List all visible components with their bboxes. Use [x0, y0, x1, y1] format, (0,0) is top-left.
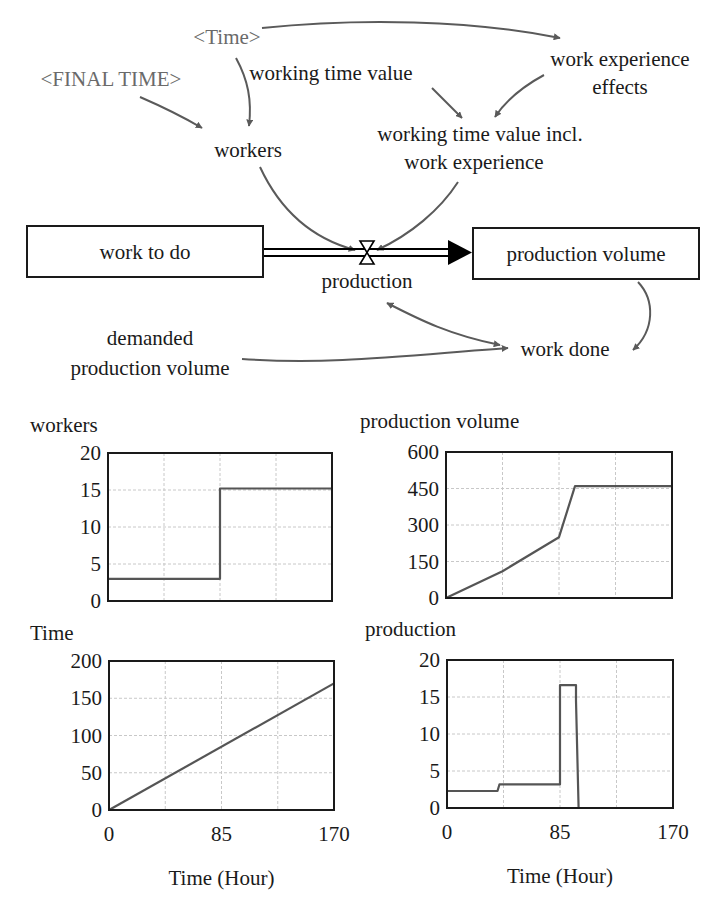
x-tick-label: 85	[550, 820, 571, 844]
chart-grid	[109, 661, 334, 810]
link-production-volume-to-work-done	[633, 282, 650, 350]
chart-grid	[446, 452, 672, 598]
series-line	[108, 489, 332, 579]
chart-title: workers	[30, 413, 98, 437]
y-tick-label: 5	[430, 759, 441, 783]
x-axis-label: Time (Hour)	[507, 864, 613, 888]
chart-workers: workers05101520	[30, 413, 332, 613]
link-work-done-to-production	[387, 303, 500, 345]
y-tick-label: 0	[430, 796, 441, 820]
y-tick-label: 0	[91, 589, 102, 613]
link-workers-to-production	[260, 167, 355, 250]
y-tick-label: 50	[81, 761, 102, 785]
series-line	[447, 685, 673, 808]
y-tick-label: 150	[71, 686, 103, 710]
flow-arrowhead-icon	[448, 240, 472, 265]
chart-title: production	[365, 617, 456, 641]
stock-label: work to do	[100, 240, 191, 264]
x-tick-label: 0	[442, 820, 453, 844]
stock-label: production volume	[506, 242, 665, 266]
stock-work-to-do[interactable]: work to do	[27, 226, 263, 277]
variable-working-time-value-incl-line1[interactable]: working time value incl.	[377, 122, 582, 146]
variable-demanded-production-volume-line1[interactable]: demanded	[107, 326, 194, 350]
variable-working-time-value[interactable]: working time value	[249, 61, 412, 85]
link-final-time-to-workers	[140, 97, 202, 128]
y-tick-label: 150	[408, 550, 440, 574]
y-tick-label: 15	[419, 685, 440, 709]
y-tick-label: 20	[80, 441, 101, 465]
x-tick-label: 170	[657, 820, 689, 844]
x-tick-label: 170	[318, 822, 350, 846]
simulation-charts: workers05101520production volume01503004…	[30, 409, 689, 890]
production-flow-pipe	[263, 240, 472, 265]
x-tick-label: 0	[104, 822, 115, 846]
link-working-time-value-to-incl	[432, 88, 462, 118]
y-tick-label: 5	[91, 552, 102, 576]
chart-production-volume: production volume0150300450600	[360, 409, 672, 610]
variable-work-experience-effects-line2[interactable]: effects	[592, 75, 648, 99]
shadow-variable-time[interactable]: <Time>	[193, 25, 260, 49]
variable-work-done[interactable]: work done	[520, 337, 609, 361]
flow-label-production[interactable]: production	[322, 269, 413, 293]
shadow-variable-final-time[interactable]: <FINAL TIME>	[41, 67, 182, 91]
variable-work-experience-effects-line1[interactable]: work experience	[550, 47, 689, 71]
y-tick-label: 300	[408, 513, 440, 537]
link-time-to-work-experience-effects	[262, 22, 560, 38]
y-tick-label: 15	[80, 478, 101, 502]
variable-workers[interactable]: workers	[214, 138, 282, 162]
y-tick-label: 0	[92, 798, 103, 822]
stock-flow-diagram: work to do production volume production …	[27, 22, 699, 380]
link-incl-to-production	[377, 182, 458, 250]
link-work-experience-effects-to-incl	[495, 75, 544, 117]
x-tick-label: 85	[211, 822, 232, 846]
y-tick-label: 10	[80, 515, 101, 539]
y-tick-label: 10	[419, 722, 440, 746]
variable-demanded-production-volume-line2[interactable]: production volume	[70, 356, 229, 380]
stock-production-volume[interactable]: production volume	[473, 228, 699, 279]
link-time-to-workers	[236, 58, 250, 126]
y-tick-label: 100	[71, 724, 103, 748]
y-tick-label: 600	[408, 440, 440, 464]
chart-title: production volume	[360, 409, 519, 433]
y-tick-label: 0	[429, 586, 440, 610]
valve-icon	[360, 241, 374, 264]
link-demanded-to-work-done	[242, 348, 508, 361]
chart-production: production05101520085170Time (Hour)	[365, 617, 689, 888]
variable-working-time-value-incl-line2[interactable]: work experience	[404, 150, 543, 174]
y-tick-label: 200	[71, 649, 103, 673]
figure-canvas: work to do production volume production …	[0, 0, 721, 912]
y-tick-label: 20	[419, 648, 440, 672]
y-tick-label: 450	[408, 477, 440, 501]
x-axis-label: Time (Hour)	[169, 866, 275, 890]
chart-time: Time050100150200085170Time (Hour)	[30, 621, 350, 890]
chart-title: Time	[30, 621, 74, 645]
sd-model-figure: work to do production volume production …	[0, 0, 721, 912]
